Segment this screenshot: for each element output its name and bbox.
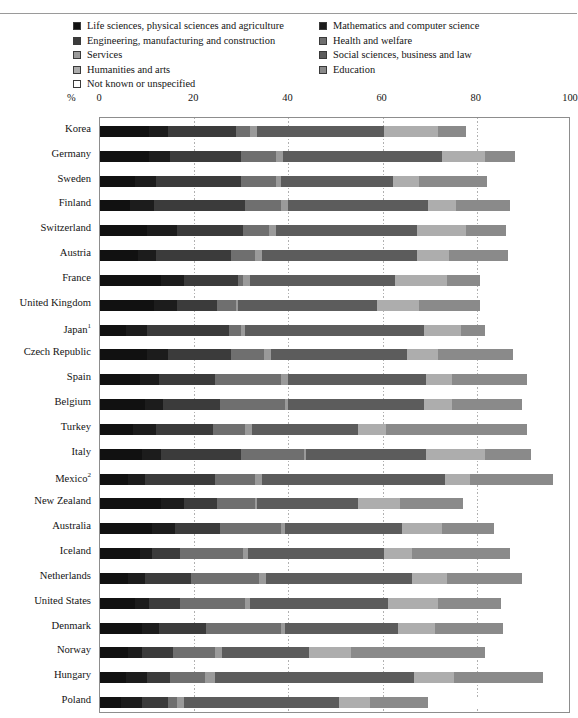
bar-segment	[452, 399, 522, 410]
bar-row[interactable]	[100, 300, 569, 311]
bar-segment	[485, 647, 492, 658]
bar-segment	[257, 126, 384, 137]
x-axis-labels: % 020406080100	[0, 92, 577, 106]
bar-row[interactable]	[100, 498, 569, 509]
bar-segment	[128, 474, 144, 485]
bar-row[interactable]	[100, 697, 569, 708]
bar-segment	[100, 225, 147, 236]
legend-item-label: Services	[87, 48, 122, 63]
bar-segment	[266, 573, 411, 584]
bar-row[interactable]	[100, 176, 569, 187]
bar-segment	[173, 647, 215, 658]
bar-segment	[245, 424, 252, 435]
legend-item[interactable]: Life sciences, physical sciences and agr…	[73, 19, 284, 34]
legend-item[interactable]: Education	[319, 63, 479, 78]
bar-segment	[243, 275, 250, 286]
bar-segment	[205, 672, 214, 683]
bar-row[interactable]	[100, 126, 569, 137]
bar-segment	[177, 697, 184, 708]
bar-row[interactable]	[100, 275, 569, 286]
legend-item-label: Humanities and arts	[87, 63, 170, 78]
bar-segment	[522, 399, 529, 410]
bar-segment	[135, 598, 149, 609]
legend-item-label: Engineering, manufacturing and construct…	[87, 34, 275, 49]
bar-segment	[438, 349, 513, 360]
legend-item[interactable]: Social sciences, business and law	[319, 48, 479, 63]
y-axis-category-label: Netherlands	[0, 570, 96, 581]
bar-segment	[285, 523, 402, 534]
y-axis-category-label: Norway	[0, 644, 96, 655]
y-axis-category-label: Czech Republic	[0, 346, 96, 357]
legend-item[interactable]: Engineering, manufacturing and construct…	[73, 34, 284, 49]
bar-row[interactable]	[100, 424, 569, 435]
bar-row[interactable]	[100, 449, 569, 460]
bar-segment	[417, 250, 450, 261]
y-axis-category-label: Belgium	[0, 396, 96, 407]
legend-item[interactable]: Not known or unspecified	[73, 77, 284, 92]
bar-row[interactable]	[100, 225, 569, 236]
bar-row[interactable]	[100, 200, 569, 211]
x-axis-tick-label: 100	[562, 92, 578, 103]
bar-row[interactable]	[100, 647, 569, 658]
stacked-bar	[100, 623, 569, 634]
bar-segment	[250, 275, 395, 286]
bar-segment	[135, 176, 156, 187]
bar-row[interactable]	[100, 598, 569, 609]
bar-segment	[175, 523, 220, 534]
bar-segment	[456, 200, 510, 211]
y-axis-category-label: Denmark	[0, 620, 96, 631]
bar-segment	[417, 225, 466, 236]
bar-segment	[215, 474, 255, 485]
bar-segment	[370, 697, 429, 708]
stacked-bar	[100, 200, 569, 211]
bar-row[interactable]	[100, 474, 569, 485]
legend-item[interactable]: Services	[73, 48, 284, 63]
bar-segment	[100, 548, 140, 559]
bar-row[interactable]	[100, 523, 569, 534]
bar-segment	[250, 598, 388, 609]
y-label-footnote-marker: 1	[88, 322, 92, 330]
bar-row[interactable]	[100, 623, 569, 634]
bar-segment	[281, 176, 394, 187]
bar-row[interactable]	[100, 672, 569, 683]
bar-segment	[154, 300, 177, 311]
legend-item[interactable]: Humanities and arts	[73, 63, 284, 78]
bar-row[interactable]	[100, 325, 569, 336]
bar-row[interactable]	[100, 548, 569, 559]
legend-swatch-health	[319, 37, 327, 45]
bar-segment	[217, 498, 255, 509]
bar-segment	[419, 176, 487, 187]
bar-segment	[447, 275, 480, 286]
bar-row[interactable]	[100, 349, 569, 360]
bar-segment	[126, 672, 147, 683]
bar-segment	[395, 275, 447, 286]
bar-segment	[445, 474, 471, 485]
y-axis-category-label: Korea	[0, 123, 96, 134]
bar-segment	[138, 250, 157, 261]
legend-swatch-engineering	[73, 37, 81, 45]
x-axis-unit: %	[67, 92, 76, 103]
legend-item[interactable]: Health and welfare	[319, 34, 479, 49]
bar-segment	[485, 151, 515, 162]
bar-segment	[100, 523, 152, 534]
legend-item-label: Life sciences, physical sciences and agr…	[87, 19, 284, 34]
legend-item[interactable]: Mathematics and computer science	[319, 19, 479, 34]
y-axis-category-label: Finland	[0, 197, 96, 208]
stacked-bar	[100, 672, 569, 683]
x-axis-tick-label: 60	[376, 92, 386, 103]
bar-segment	[276, 225, 417, 236]
bar-row[interactable]	[100, 573, 569, 584]
bar-row[interactable]	[100, 250, 569, 261]
bar-segment	[147, 672, 170, 683]
bar-segment	[121, 697, 142, 708]
bar-segment	[243, 225, 269, 236]
bar-row[interactable]	[100, 399, 569, 410]
legend-column-right: Mathematics and computer scienceHealth a…	[319, 19, 479, 77]
x-axis-tick-label: 40	[282, 92, 292, 103]
bar-row[interactable]	[100, 374, 569, 385]
legend-swatch-services	[73, 51, 81, 59]
x-axis-tick-label: 20	[188, 92, 198, 103]
y-axis-category-label: France	[0, 272, 96, 283]
bar-segment	[229, 325, 241, 336]
bar-row[interactable]	[100, 151, 569, 162]
